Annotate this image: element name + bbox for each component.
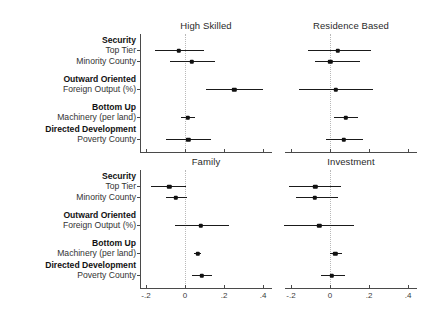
estimate-point [198,223,202,227]
estimate-point [333,251,337,255]
estimate-point [167,184,171,188]
x-tick [146,149,147,152]
category-label: Machinery (per land) [57,112,136,122]
x-tick [408,149,409,152]
x-tick [224,285,225,288]
category-group-label: Security [102,35,136,45]
category-group-label: Directed Development [45,260,136,270]
confidence-interval [296,197,338,198]
x-tick-label: .2 [355,291,383,300]
estimate-point [313,184,317,188]
category-label: Top Tier [105,181,136,191]
y-tick [137,253,140,254]
category-label: Machinery (per land) [57,248,136,258]
estimate-point [190,59,194,63]
x-tick-label: .4 [394,291,422,300]
estimate-point [232,87,236,91]
estimate-point [199,273,203,277]
category-group-label: Bottom Up [92,238,136,248]
zero-reference-line [185,34,187,152]
x-tick [185,285,186,288]
x-tick [330,285,331,288]
x-tick [185,149,186,152]
estimate-point [174,195,178,199]
panel-title-residence-based: Residence Based [275,20,427,31]
estimate-point [343,115,347,119]
y-axis-line [140,170,141,288]
estimate-point [313,195,317,199]
x-tick [369,149,370,152]
x-tick-label: .2 [210,291,238,300]
y-tick [137,89,140,90]
x-tick [263,149,264,152]
x-axis-line [140,288,272,289]
x-axis-line [285,288,417,289]
x-axis-line [285,152,417,153]
y-tick [137,61,140,62]
category-label: Minority County [76,56,136,66]
panel-title-family: Family [130,156,282,167]
category-label: Foreign Output (%) [63,220,136,230]
category-label: Top Tier [105,45,136,55]
estimate-point [330,273,334,277]
estimate-point [317,223,321,227]
category-group-label: Security [102,171,136,181]
category-group-label: Bottom Up [92,102,136,112]
zero-reference-line [330,170,332,288]
x-tick [369,285,370,288]
estimate-point [186,137,190,141]
x-tick [224,149,225,152]
y-tick [137,275,140,276]
estimate-point [186,115,190,119]
coefficient-plot-figure: High SkilledResidence BasedFamily-.20.2.… [0,0,446,327]
confidence-interval [308,50,371,51]
x-tick [146,285,147,288]
x-tick-label: 0 [171,291,199,300]
y-tick [137,225,140,226]
estimate-point [177,48,181,52]
zero-reference-line [330,34,332,152]
y-tick [137,139,140,140]
category-group-label: Directed Development [45,124,136,134]
estimate-point [336,48,340,52]
y-tick [137,197,140,198]
y-axis-line [140,34,141,152]
y-tick [137,117,140,118]
zero-reference-line [185,170,187,288]
estimate-point [195,251,199,255]
estimate-point [341,137,345,141]
x-tick [330,149,331,152]
x-tick [408,285,409,288]
x-tick [263,285,264,288]
confidence-interval [315,61,360,62]
estimate-point [334,87,338,91]
category-label: Poverty County [77,270,136,280]
x-axis-line [140,152,272,153]
category-group-label: Outward Oriented [63,210,136,220]
panel-title-investment: Investment [275,156,427,167]
category-group-label: Outward Oriented [63,74,136,84]
y-tick [137,186,140,187]
x-tick-label: -.2 [132,291,160,300]
x-tick [291,285,292,288]
x-tick-label: .4 [249,291,277,300]
panel-title-high-skilled: High Skilled [130,20,282,31]
y-tick [137,50,140,51]
category-label: Foreign Output (%) [63,84,136,94]
x-tick-label: 0 [316,291,344,300]
x-tick [291,149,292,152]
category-label: Minority County [76,192,136,202]
category-label: Poverty County [77,134,136,144]
x-tick-label: -.2 [277,291,305,300]
